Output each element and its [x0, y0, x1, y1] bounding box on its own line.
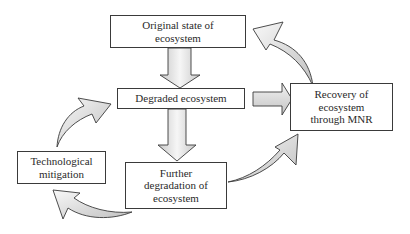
curved-arrow-further-to-technological-icon: [53, 190, 132, 219]
arrow-right-degraded-to-recovery-icon: [253, 83, 292, 115]
node-original-state: Original state of ecosystem: [110, 15, 246, 48]
diagram-canvas: Original state of ecosystem Degraded eco…: [0, 0, 410, 234]
arrow-down-degraded-to-further-icon: [158, 109, 196, 161]
curved-arrow-recovery-to-original-icon: [253, 22, 313, 86]
node-degraded-ecosystem: Degraded ecosystem: [117, 88, 245, 109]
curved-arrow-further-to-recovery-icon: [228, 134, 298, 182]
node-label: Further degradation of ecosystem: [144, 167, 208, 205]
node-label: Degraded ecosystem: [135, 92, 226, 105]
curved-arrow-technological-to-degraded-icon: [57, 98, 111, 147]
node-further-degradation: Further degradation of ecosystem: [125, 162, 227, 209]
node-technological-mitigation: Technological mitigation: [17, 151, 106, 184]
arrow-down-original-to-degraded-icon: [160, 48, 200, 88]
node-label: Technological mitigation: [30, 155, 92, 180]
node-label: Original state of ecosystem: [142, 19, 213, 44]
node-label: Recovery of ecosystem through MNR: [310, 88, 372, 126]
node-recovery-mnr: Recovery of ecosystem through MNR: [290, 83, 393, 131]
